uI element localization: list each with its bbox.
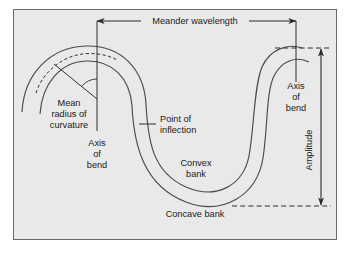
mean-radius-label-line2: radius of bbox=[51, 109, 87, 119]
point-of-inflection-label-line1: Point of bbox=[160, 114, 192, 124]
mean-radius-label-line1: Mean bbox=[58, 98, 81, 108]
axis-of-bend-left-label-line3: bend bbox=[87, 160, 107, 170]
meander-diagram: Meander wavelength Mean radius of curvat… bbox=[0, 0, 350, 256]
mean-radius-label-line3: curvature bbox=[50, 120, 88, 130]
axis-of-bend-right-label-line3: bend bbox=[286, 103, 306, 113]
axis-of-bend-left-label-line1: Axis bbox=[88, 138, 106, 148]
amplitude-label: Amplitude bbox=[304, 130, 314, 171]
axis-of-bend-right-label-line1: Axis bbox=[287, 81, 305, 91]
axis-of-bend-left-label-line2: of bbox=[93, 149, 101, 159]
axis-of-bend-right-label-line2: of bbox=[292, 92, 300, 102]
concave-bank-label: Concave bank bbox=[166, 209, 225, 219]
meander-wavelength-label: Meander wavelength bbox=[152, 16, 237, 26]
convex-bank-label-line2: bank bbox=[186, 169, 206, 179]
convex-bank-label-line1: Convex bbox=[180, 158, 212, 168]
figure-root: Meander wavelength Mean radius of curvat… bbox=[0, 0, 350, 256]
point-of-inflection-label-line2: inflection bbox=[160, 125, 196, 135]
